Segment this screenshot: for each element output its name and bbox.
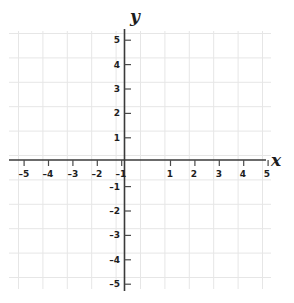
coordinate-grid-canvas (0, 0, 294, 303)
y-tick-label-neg4: –4 (109, 256, 120, 265)
y-tick-label-2: 2 (114, 109, 120, 118)
y-axis-label: y (130, 8, 140, 25)
y-axis-tick-marks (125, 40, 132, 284)
x-tick-label-neg3: –3 (68, 170, 79, 179)
x-tick-label-neg5: –5 (19, 170, 30, 179)
y-tick-label-neg1: –1 (109, 183, 120, 192)
coordinate-plane-figure: x y –5 –4 –3 –2 –1 1 2 3 4 5 5 4 3 2 1 –… (0, 0, 294, 303)
x-tick-label-1: 1 (167, 170, 173, 179)
x-axis-label: x (271, 152, 281, 169)
y-tick-label-4: 4 (114, 61, 120, 70)
y-tick-label-neg2: –2 (109, 207, 120, 216)
x-tick-label-5: 5 (264, 170, 270, 179)
y-tick-label-3: 3 (114, 85, 120, 94)
x-axis-tick-marks (24, 160, 268, 166)
y-tick-label-1: 1 (114, 134, 120, 143)
x-tick-label-neg4: –4 (43, 170, 54, 179)
x-tick-label-3: 3 (216, 170, 222, 179)
x-tick-label-4: 4 (240, 170, 246, 179)
y-tick-label-neg5: –5 (109, 280, 120, 289)
x-tick-label-neg1: –1 (116, 170, 127, 179)
x-tick-label-2: 2 (191, 170, 197, 179)
x-tick-label-neg2: –2 (92, 170, 103, 179)
y-tick-label-neg3: –3 (109, 231, 120, 240)
y-tick-label-5: 5 (114, 36, 120, 45)
